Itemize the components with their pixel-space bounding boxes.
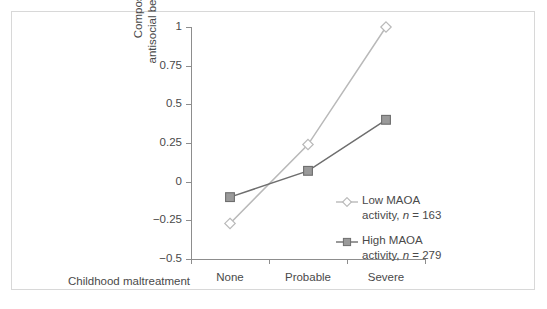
legend-label-line1: Low MAOA — [362, 193, 441, 208]
y-axis-tick-label: 0.5 — [166, 96, 182, 111]
figure-panel: 10.750.50.250−0.25−0.5 NoneProbableSever… — [11, 11, 535, 290]
y-axis-tick-label: 0.75 — [160, 58, 182, 73]
legend-label-suffix: = 163 — [409, 209, 441, 221]
x-axis-tick-label: Probable — [285, 270, 331, 285]
data-point-marker — [304, 166, 313, 175]
y-axis-tick-label: −0.25 — [153, 212, 182, 227]
series-line — [230, 120, 386, 197]
open-diamond-marker-icon — [336, 197, 358, 207]
x-axis-tick — [269, 259, 270, 264]
x-axis-tick-label: Severe — [368, 270, 404, 285]
y-axis-title-line1: Composite index of — [131, 0, 145, 74]
data-point-marker — [381, 22, 391, 32]
legend-label-prefix: activity, — [362, 249, 403, 261]
plot-area: 10.750.50.250−0.25−0.5 NoneProbableSever… — [191, 27, 425, 259]
legend-label-prefix: activity, — [362, 209, 403, 221]
x-axis-tick-label: None — [216, 270, 244, 285]
legend-label-line2: activity, n = 279 — [362, 248, 441, 263]
data-point-marker — [382, 115, 391, 124]
y-axis-tick-label: 1 — [176, 19, 182, 34]
legend-entry-high-maoa: High MAOA activity, n = 279 — [336, 233, 441, 262]
y-axis-tick-label: 0 — [176, 174, 182, 189]
y-axis-title: Composite index of antisocial behavior (… — [131, 0, 159, 74]
data-point-marker — [226, 193, 235, 202]
y-axis-tick-label: −0.5 — [159, 251, 182, 266]
y-axis-title-line2: antisocial behavior (z scores) — [145, 0, 159, 74]
chart-legend: Low MAOA activity, n = 163 High MAOA act… — [336, 193, 441, 262]
x-axis-title: Childhood maltreatment — [68, 274, 190, 289]
legend-label-line2: activity, n = 163 — [362, 208, 441, 223]
filled-square-marker-icon — [336, 237, 358, 247]
legend-label-line1: High MAOA — [362, 233, 441, 248]
y-axis-tick-label: 0.25 — [160, 135, 182, 150]
legend-entry-low-maoa: Low MAOA activity, n = 163 — [336, 193, 441, 222]
legend-label-suffix: = 279 — [409, 249, 441, 261]
x-axis-tick — [191, 259, 192, 264]
